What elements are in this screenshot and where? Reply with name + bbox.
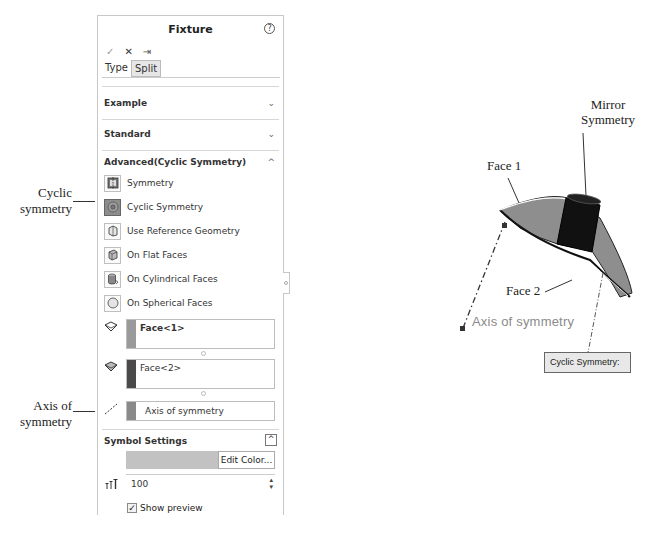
chevron-down-icon[interactable]: ⌄ (267, 129, 275, 139)
option-label: On Flat Faces (127, 250, 187, 260)
face-icon (104, 321, 118, 333)
edit-color-button[interactable]: Edit Color... (218, 451, 275, 469)
annotation-cyclic-symmetry: Cyclic symmetry (10, 185, 72, 217)
reference-geometry-icon (104, 223, 121, 240)
label-line-1: Mirror (578, 97, 638, 112)
cyclic-symmetry-icon (104, 199, 121, 216)
symbol-size-value: 100 (131, 479, 148, 489)
annotation-line-2: symmetry (10, 201, 72, 217)
chevron-up-icon[interactable]: ^ (267, 157, 275, 167)
annotation-line-1: Axis of (10, 398, 72, 414)
face2-label: Face 2 (506, 283, 540, 298)
axis-of-symmetry-leader (73, 411, 95, 412)
option-label: Cyclic Symmetry (127, 202, 203, 212)
label-line-2: Symmetry (578, 112, 638, 127)
show-preview-checkbox[interactable]: ✓ (127, 503, 137, 513)
tab-bar: Type Split (102, 60, 280, 78)
panel-title: Fixture (98, 23, 283, 36)
color-swatch (127, 320, 136, 348)
section-advanced[interactable]: Advanced(Cyclic Symmetry) ^ (104, 157, 275, 167)
show-preview-label: Show preview (140, 503, 203, 513)
tab-type[interactable]: Type (102, 60, 131, 77)
axis-selection: Axis of symmetry (104, 401, 275, 421)
divider (102, 150, 279, 151)
option-cyclic-symmetry[interactable]: Cyclic Symmetry (104, 197, 203, 217)
mirror-symmetry-label: Mirror Symmetry (578, 97, 638, 127)
face1-selection-box[interactable]: Face<1> (126, 319, 275, 349)
symbol-size-input[interactable]: 100 ▴▾ (126, 474, 275, 494)
panel-toolbar: ✓ ✕ ⇥ (106, 46, 151, 57)
flat-faces-icon (104, 247, 121, 264)
annotation-line-2: symmetry (10, 414, 72, 430)
option-on-flat-faces[interactable]: On Flat Faces (104, 245, 187, 265)
color-swatch (127, 402, 136, 420)
panel-flyout-handle[interactable] (283, 272, 290, 294)
section-example[interactable]: Example ⌄ (104, 98, 275, 108)
help-icon[interactable]: ? (264, 23, 275, 34)
option-use-reference-geometry[interactable]: Use Reference Geometry (104, 221, 240, 241)
face1-label: Face 1 (487, 158, 521, 173)
tab-split[interactable]: Split (131, 60, 161, 77)
ok-button[interactable]: ✓ (106, 46, 114, 57)
axis-of-symmetry-callout: Axis of symmetry (472, 314, 574, 329)
option-label: On Cylindrical Faces (127, 274, 218, 284)
annotation-line-1: Cyclic (10, 185, 72, 201)
divider (102, 429, 279, 430)
cyclic-symmetry-leader (73, 201, 95, 202)
option-on-spherical-faces[interactable]: On Spherical Faces (104, 293, 212, 313)
selection-value: Face<1> (140, 323, 184, 333)
option-label: Use Reference Geometry (127, 226, 240, 236)
option-label: Symmetry (127, 178, 174, 188)
annotation-axis-of-symmetry: Axis of symmetry (10, 398, 72, 430)
option-symmetry[interactable]: Symmetry (104, 173, 174, 193)
face2-selection: Face<2> (104, 359, 275, 389)
divider (102, 86, 279, 87)
axis-icon (104, 403, 118, 415)
chevron-down-icon[interactable]: ⌄ (267, 98, 275, 108)
section-label: Symbol Settings (104, 436, 187, 446)
face-icon (104, 361, 118, 373)
section-standard[interactable]: Standard ⌄ (104, 129, 275, 139)
cyclic-symmetry-callout[interactable]: Cyclic Symmetry: (544, 352, 631, 373)
model-graphic (440, 130, 650, 380)
section-label: Example (104, 98, 147, 108)
selection-value: Face<2> (140, 363, 181, 373)
axis-selection-box[interactable]: Axis of symmetry (126, 401, 275, 421)
axis-point (502, 223, 507, 228)
symmetry-icon (104, 175, 121, 192)
resize-handle[interactable] (201, 351, 206, 356)
face1-selection: Face<1> (104, 319, 275, 349)
axis-point (460, 326, 465, 331)
cancel-button[interactable]: ✕ (124, 46, 132, 57)
section-symbol-settings[interactable]: Symbol Settings (104, 436, 275, 446)
spherical-faces-icon (104, 295, 121, 312)
spinner[interactable]: ▴▾ (269, 477, 273, 491)
option-label: On Spherical Faces (127, 298, 212, 308)
section-label: Advanced(Cyclic Symmetry) (104, 157, 246, 167)
collapse-button[interactable]: ^ (265, 434, 277, 446)
fixture-property-panel: Fixture ? ✓ ✕ ⇥ Type Split Example ⌄ Sta… (97, 15, 284, 515)
divider (102, 119, 279, 120)
pin-button[interactable]: ⇥ (143, 46, 151, 57)
selection-value: Axis of symmetry (145, 406, 224, 416)
resize-handle[interactable] (201, 391, 206, 396)
face2-selection-box[interactable]: Face<2> (126, 359, 275, 389)
section-label: Standard (104, 129, 151, 139)
color-swatch (127, 360, 136, 388)
cylindrical-faces-icon (104, 271, 121, 288)
symbol-size-icon (105, 478, 119, 490)
option-on-cylindrical-faces[interactable]: On Cylindrical Faces (104, 269, 218, 289)
